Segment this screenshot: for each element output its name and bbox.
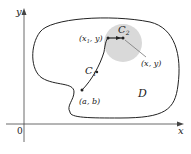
diagram-canvas: y x 0 D C1 C2 (a, b) (x1, y) (x, y) [0, 0, 191, 154]
point-x-y [122, 37, 125, 40]
y-axis-label: y [15, 6, 22, 17]
x-axis-label: x [178, 125, 184, 136]
curve-c1 [82, 38, 108, 90]
origin-label: 0 [17, 126, 23, 136]
y-axis-arrow-icon [22, 8, 27, 15]
point-a-b-label: (a, b) [79, 97, 100, 106]
c1-label: C1 [85, 65, 96, 77]
region-label: D [137, 87, 147, 100]
point-x1-y [107, 37, 110, 40]
point-x-y-label: (x, y) [141, 59, 161, 68]
point-x1-y-label: (x1, y) [79, 34, 103, 44]
point-a-b [81, 89, 84, 92]
